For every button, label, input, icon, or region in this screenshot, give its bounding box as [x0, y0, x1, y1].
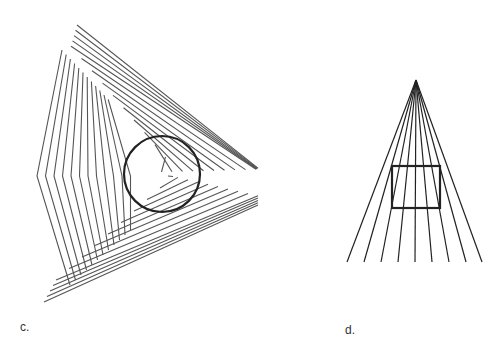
chevron-line-lower — [44, 205, 258, 302]
chevron-line-upper — [92, 71, 235, 170]
figure-c-label: c. — [20, 320, 29, 334]
chevron-line-left — [91, 82, 108, 251]
converging-ray — [347, 80, 416, 262]
illusion-figures — [0, 0, 500, 345]
chevron-line-lower — [69, 194, 248, 269]
chevron-line-upper — [71, 46, 256, 169]
circle-shape — [124, 136, 200, 212]
converging-ray — [381, 80, 416, 262]
chevron-line-left — [46, 55, 76, 281]
chevron-line-lower — [168, 176, 173, 177]
chevron-line-lower — [47, 203, 258, 297]
converging-ray — [364, 80, 416, 262]
chevron-line-left — [37, 50, 70, 285]
chevron-line-left — [71, 68, 92, 265]
chevron-line-upper — [82, 59, 246, 170]
converging-ray — [416, 80, 449, 262]
figure-d-converging-rays — [347, 80, 482, 262]
converging-ray — [398, 80, 416, 262]
chevron-line-left — [87, 77, 103, 255]
converging-ray — [415, 80, 416, 262]
converging-ray — [416, 80, 482, 262]
chevron-line-lower — [108, 187, 218, 234]
chevron-line-left — [63, 64, 87, 271]
figure-d-label: d. — [345, 323, 355, 337]
figure-c-chevron-pattern — [37, 25, 258, 302]
chevron-line-left — [80, 73, 98, 261]
chevron-line-upper — [73, 41, 257, 169]
chevron-line-left — [104, 95, 125, 235]
